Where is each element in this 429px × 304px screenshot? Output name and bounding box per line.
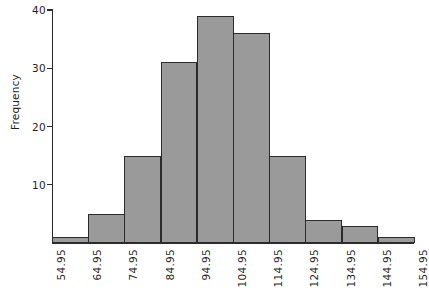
x-axis-tick-label: 74.95 [128,249,139,303]
histogram-bar [88,214,125,243]
y-axis-tick-label: 20 [20,122,46,133]
x-axis-tick-label: 94.95 [201,249,212,303]
x-axis-tick-label: 124.95 [309,249,320,303]
histogram-bar [305,220,342,243]
y-axis-tick-label-wrap: 30 [14,63,46,64]
plot-area [52,10,414,243]
histogram-bar [233,33,270,243]
y-axis-tick-label: 40 [20,5,46,16]
y-axis-tick-label: 30 [20,63,46,74]
y-axis-tick-label-wrap: 40 [14,5,46,6]
histogram-bar [269,156,306,243]
x-axis-tick-label: 64.95 [92,249,103,303]
histogram-bar [52,237,89,243]
histogram-bar [161,62,198,243]
y-axis-tick-label-wrap: 20 [14,122,46,123]
y-axis-tick-label: 10 [20,180,46,191]
y-axis-tick-label-wrap: 10 [14,180,46,181]
x-axis-tick-label: 104.95 [237,249,248,303]
x-axis-tick-label: 134.95 [346,249,357,303]
x-axis-tick-label: 114.95 [273,249,284,303]
histogram-bar [378,237,415,243]
x-axis-tick-label: 84.95 [165,249,176,303]
x-axis-tick-label: 154.95 [418,249,429,303]
histogram-bar [197,16,234,243]
x-axis-tick-label: 54.95 [56,249,67,303]
x-axis-tick-label: 144.95 [382,249,393,303]
histogram-bar [124,156,161,243]
histogram-bar [342,226,379,243]
